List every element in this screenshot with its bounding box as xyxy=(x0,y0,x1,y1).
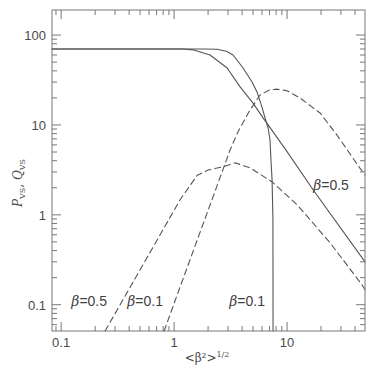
x-axis-title: <β²>1/2 xyxy=(185,350,230,365)
beta-value: =0.1 xyxy=(135,293,163,309)
x-axis-title-main: <β²> xyxy=(185,351,217,365)
annotations: β=0.5β=0.1β=0.1β=0.5 xyxy=(70,177,349,309)
y-axis-title: PVS, QVS xyxy=(11,159,27,208)
beta-annotation: β=0.5 xyxy=(70,293,107,309)
beta-annotation: β=0.1 xyxy=(228,293,265,309)
beta-annotation: β=0.5 xyxy=(312,177,349,193)
series-line-1 xyxy=(52,49,365,262)
beta-value: =0.5 xyxy=(321,177,349,193)
x-tick-label: 10 xyxy=(280,335,294,350)
y-tick-label: 100 xyxy=(24,28,46,43)
x-tick-label: 1 xyxy=(170,335,177,350)
y-tick-label: 0.1 xyxy=(28,298,46,313)
series-line-0 xyxy=(52,49,273,331)
y-axis-title-sep: , xyxy=(11,180,25,188)
y-tick-label: 1 xyxy=(39,208,46,223)
x-tick-label: 0.1 xyxy=(52,335,70,350)
y-tick-labels: 0.1110100 xyxy=(24,28,46,313)
chart: 0.1110 0.1110100 β=0.5β=0.1β=0.1β=0.5 <β… xyxy=(0,0,375,373)
beta-value: =0.1 xyxy=(237,293,265,309)
beta-symbol: β xyxy=(126,293,135,309)
x-axis-title-exponent: 1/2 xyxy=(216,350,229,359)
beta-symbol: β xyxy=(228,293,237,309)
x-tick-labels: 0.1110 xyxy=(52,335,294,350)
beta-symbol: β xyxy=(312,177,321,193)
beta-annotation: β=0.1 xyxy=(126,293,163,309)
y-axis-title-q: Q xyxy=(11,170,25,180)
y-axis-title-p-sub: VS xyxy=(18,188,27,200)
beta-value: =0.5 xyxy=(79,293,107,309)
y-tick-label: 10 xyxy=(32,118,46,133)
y-axis-title-q-sub: VS xyxy=(18,159,27,171)
beta-symbol: β xyxy=(70,293,79,309)
